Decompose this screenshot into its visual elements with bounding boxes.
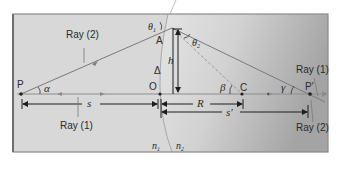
point-P-label: P <box>17 79 24 90</box>
ray1-right-label: Ray (1) <box>296 64 329 75</box>
normal-line-upper <box>170 0 176 14</box>
gamma-label: γ <box>281 81 286 93</box>
delta-label: Δ <box>154 65 161 76</box>
point-A-label: A <box>156 35 163 46</box>
ray2-right-label: Ray (2) <box>296 122 329 133</box>
refraction-diagram: Ray (2) Ray (1) Ray (1) Ray (2) P A O C … <box>0 0 340 169</box>
point-P-dot <box>19 92 23 96</box>
s-label: s <box>87 97 91 109</box>
diagram-canvas: Ray (2) Ray (1) Ray (1) Ray (2) P A O C … <box>0 0 340 169</box>
sprime-label: s′ <box>226 106 233 118</box>
beta-label: β <box>219 81 226 93</box>
point-O-label: O <box>149 81 157 92</box>
ray2-top-label: Ray (2) <box>66 29 99 40</box>
R-label: R <box>196 97 204 109</box>
point-Pprime-dot <box>308 92 312 96</box>
point-Pprime-label: P′ <box>305 81 314 92</box>
ray1-bottom-left-label: Ray (1) <box>60 120 93 131</box>
alpha-label: α <box>44 82 50 94</box>
h-label: h <box>168 54 174 66</box>
point-O-dot <box>158 92 161 95</box>
point-C-label: C <box>240 82 247 93</box>
